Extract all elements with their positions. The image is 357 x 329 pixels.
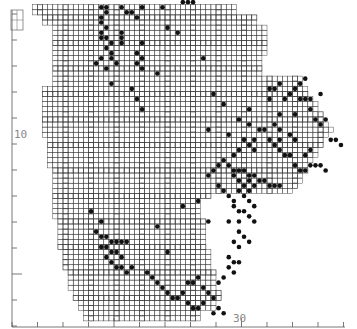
grid-cell [94,280,99,285]
occurrence-dot [196,306,201,311]
grid-cell [150,270,155,275]
grid-cell [124,46,129,51]
grid-cell [287,158,292,163]
grid-cell [129,132,134,137]
grid-cell [236,40,241,45]
grid-cell [99,301,104,306]
grid-cell [129,20,134,25]
grid-cell [216,56,221,61]
grid-cell [170,107,175,112]
grid-cell [298,173,303,178]
grid-cell [165,295,170,300]
grid-cell [201,234,206,239]
grid-cell [109,280,114,285]
grid-cell [140,290,145,295]
occurrence-dot [247,178,252,183]
grid-cell [323,127,328,132]
grid-cell [170,173,175,178]
grid-cell [63,188,68,193]
grid-cell [53,25,58,30]
grid-cell [165,46,170,51]
grid-cell [180,224,185,229]
grid-cell [170,204,175,209]
grid-cell [206,153,211,158]
grid-cell [63,81,68,86]
grid-cell [175,250,180,255]
grid-cell [129,270,134,275]
grid-cell [150,214,155,219]
grid-cell [140,71,145,76]
grid-cell [99,183,104,188]
grid-cell [129,61,134,66]
grid-cell [328,127,333,132]
grid-cell [140,285,145,290]
grid-cell [165,91,170,96]
occurrence-dot [109,240,114,245]
grid-cell [196,102,201,107]
grid-cell [129,35,134,40]
occurrence-dot [170,296,175,301]
grid-cell [252,91,257,96]
grid-cell [201,122,206,127]
grid-cell [134,316,139,321]
grid-cell [89,20,94,25]
grid-cell [303,127,308,132]
grid-cell [83,132,88,137]
grid-cell [94,40,99,45]
occurrence-dot [247,173,252,178]
grid-cell [78,290,83,295]
grid-cell [196,173,201,178]
grid-cell [191,163,196,168]
grid-cell [73,35,78,40]
occurrence-dot [232,168,237,173]
grid-cell [262,51,267,56]
grid-cell [63,137,68,142]
grid-cell [94,265,99,270]
grid-cell [109,209,114,214]
grid-cell [191,91,196,96]
grid-cell [58,61,63,66]
grid-cell [124,316,129,321]
grid-cell [140,15,145,20]
grid-cell [191,71,196,76]
grid-cell [134,173,139,178]
grid-cell [89,214,94,219]
grid-cell [89,250,94,255]
grid-cell [216,97,221,102]
grid-cell [226,122,231,127]
grid-cell [78,199,83,204]
grid-cell [226,10,231,15]
grid-cell [282,91,287,96]
grid-cell [94,183,99,188]
grid-cell [242,71,247,76]
grid-cell [252,46,257,51]
grid-cell [216,132,221,137]
grid-cell [63,66,68,71]
grid-cell [109,306,114,311]
grid-cell [180,219,185,224]
grid-cell [293,117,298,122]
grid-cell [231,15,236,20]
grid-cell [124,229,129,234]
grid-cell [267,117,272,122]
grid-cell [221,86,226,91]
grid-cell [145,234,150,239]
grid-cell [201,270,206,275]
grid-cell [53,188,58,193]
grid-cell [191,35,196,40]
grid-cell [226,91,231,96]
grid-cell [109,91,114,96]
grid-cell [73,173,78,178]
grid-cell [83,86,88,91]
grid-cell [124,86,129,91]
grid-cell [114,51,119,56]
occurrence-dot [272,122,277,127]
grid-cell [196,214,201,219]
grid-cell [185,20,190,25]
occurrence-dot [247,199,252,204]
occurrence-dot [99,245,104,250]
grid-cell [180,20,185,25]
grid-cell [104,40,109,45]
grid-cell [48,112,53,117]
grid-cell [129,30,134,35]
